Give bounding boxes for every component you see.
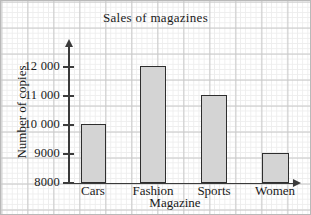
category-label-sports: Sports bbox=[183, 183, 245, 199]
bar-cars bbox=[81, 124, 106, 183]
bar-women bbox=[262, 153, 289, 183]
y-axis-tick-label: 11 000 bbox=[4, 88, 60, 103]
y-axis-tick-mark bbox=[63, 95, 74, 96]
y-axis-tick-label: 8000 bbox=[4, 175, 60, 190]
y-axis-tick-label: 9000 bbox=[4, 146, 60, 161]
y-axis-tick-mark bbox=[63, 153, 74, 154]
bar-fashion bbox=[140, 66, 166, 183]
chart-title: Sales of magazines bbox=[0, 10, 311, 26]
category-label-fashion: Fashion bbox=[122, 183, 184, 199]
y-axis-arrowhead-icon bbox=[65, 39, 73, 47]
plot-area: Sales of magazines Number of copies Maga… bbox=[0, 0, 311, 215]
y-axis-tick-mark bbox=[63, 124, 74, 125]
y-axis-tick-label: 12 000 bbox=[4, 59, 60, 74]
bar-chart-screenshot: Sales of magazines Number of copies Maga… bbox=[0, 0, 311, 215]
bar-sports bbox=[201, 95, 227, 183]
category-label-women: Women bbox=[244, 183, 306, 199]
y-axis-tick-label: 10 000 bbox=[4, 117, 60, 132]
y-axis-tick-mark bbox=[63, 66, 74, 67]
category-label-cars: Cars bbox=[62, 183, 124, 199]
